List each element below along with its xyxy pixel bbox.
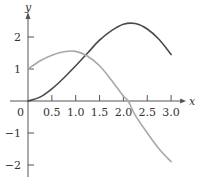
y-tick-label: 1 [14,63,21,76]
x-tick-label: 2.5 [139,106,157,119]
x-tick-label: 0.5 [43,106,61,119]
axes [10,12,186,177]
x-axis-label: x [189,95,196,108]
chart: 0.51.01.52.02.53.0−2−112 x y 0 [0,0,205,186]
origin-label: 0 [17,106,24,119]
x-tick-label: 3.0 [162,106,180,119]
y-tick-label: −1 [5,127,21,140]
x-axis-arrow-icon [180,99,186,104]
x-tick-label: 2.0 [115,106,133,119]
x-tick-label: 1.0 [67,106,85,119]
y-tick-label: 2 [14,31,21,44]
series-group [28,23,171,162]
y-axis-label: y [24,1,32,14]
series-line-dark-curve [28,23,171,101]
x-tick-label: 1.5 [91,106,109,119]
y-tick-label: −2 [5,159,21,172]
